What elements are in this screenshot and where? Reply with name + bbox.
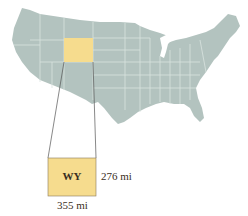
height-dimension-label: 276 mi — [101, 170, 132, 182]
width-dimension-label: 355 mi — [57, 199, 88, 211]
us-mainland-shape — [12, 8, 240, 124]
us-map-figure: WY 276 mi 355 mi — [0, 0, 248, 216]
state-abbreviation-label: WY — [48, 170, 96, 182]
wyoming-state-highlight — [64, 38, 93, 62]
us-map — [0, 0, 248, 216]
